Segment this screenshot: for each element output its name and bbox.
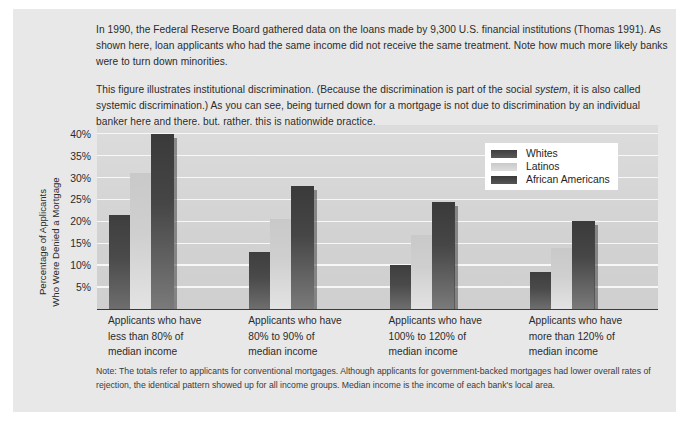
x-category-label-line: more than 120% of <box>529 329 622 345</box>
bar-shadow <box>594 225 598 309</box>
legend-label-latinos: Latinos <box>526 161 560 172</box>
y-tick-label: 40% <box>70 128 91 139</box>
bar-fill <box>270 219 293 309</box>
bar-fill <box>151 134 174 309</box>
bar-fill <box>432 202 455 309</box>
bar-african-americans <box>572 221 598 309</box>
x-category-label-line: Applicants who have <box>529 313 622 329</box>
bar-shadow <box>174 138 178 309</box>
figure-panel: In 1990, the Federal Reserve Board gathe… <box>13 9 676 412</box>
legend-swatch-icon-african-americans <box>491 176 517 184</box>
bar-shadow <box>454 206 458 309</box>
y-tick-label: 30% <box>70 172 91 183</box>
x-category-label-line: median income <box>248 344 341 360</box>
bar-chart: Percentage of Applicants Who Were Denied… <box>13 121 676 371</box>
x-category-label-line: Applicants who have <box>108 313 201 329</box>
x-category-label-line: median income <box>389 344 482 360</box>
bar-african-americans <box>151 134 177 309</box>
y-tick-label: 20% <box>70 216 91 227</box>
x-category-label-line: median income <box>108 344 201 360</box>
x-category-label-line: Applicants who have <box>248 313 341 329</box>
bar-fill <box>551 248 574 309</box>
chart-legend: Whites Latinos African Americans <box>485 143 618 190</box>
bar-fill <box>291 186 314 309</box>
x-category-label: Applicants who havemore than 120% ofmedi… <box>529 313 622 360</box>
legend-item-latinos: Latinos <box>491 160 610 173</box>
y-tick-label: 5% <box>76 282 91 293</box>
x-category-label-line: 80% to 90% of <box>248 329 341 345</box>
bar-fill <box>390 265 413 309</box>
legend-swatch-icon-latinos <box>491 163 517 171</box>
x-category-label: Applicants who haveless than 80% ofmedia… <box>108 313 201 360</box>
figure-note: Note: The totals refer to applicants for… <box>96 365 656 392</box>
bar-fill <box>130 173 153 309</box>
x-category-label-line: Applicants who have <box>389 313 482 329</box>
x-category-label: Applicants who have100% to 120% ofmedian… <box>389 313 482 360</box>
bar-group <box>97 125 237 309</box>
bar-fill <box>530 272 553 309</box>
x-category-label: Applicants who have80% to 90% ofmedian i… <box>248 313 341 360</box>
bar-fill <box>411 235 434 309</box>
emphasis-system: system <box>535 84 568 95</box>
legend-item-african-americans: African Americans <box>491 173 610 186</box>
legend-label-african-americans: African Americans <box>526 174 610 185</box>
y-tick-label: 10% <box>70 260 91 271</box>
x-category-label-line: 100% to 120% of <box>389 329 482 345</box>
x-category-label-line: median income <box>529 344 622 360</box>
x-axis-category-labels: Applicants who haveless than 80% ofmedia… <box>97 313 658 369</box>
y-tick-label: 25% <box>70 194 91 205</box>
legend-item-whites: Whites <box>491 147 610 160</box>
bar-shadow <box>314 190 318 309</box>
y-axis-title-line-1: Percentage of Applicants <box>36 154 49 330</box>
bar-fill <box>249 252 272 309</box>
bar-group <box>237 125 377 309</box>
y-tick-label: 15% <box>70 238 91 249</box>
bar-fill <box>109 215 132 309</box>
intro-paragraph-1: In 1990, the Federal Reserve Board gathe… <box>96 22 673 71</box>
legend-label-whites: Whites <box>526 148 558 159</box>
bar-african-americans <box>432 202 458 309</box>
y-axis-ticks: 40%35%30%25%20%15%10%5% <box>51 121 91 321</box>
legend-swatch-icon-whites <box>491 150 517 158</box>
bar-african-americans <box>291 186 317 309</box>
bar-fill <box>572 221 595 309</box>
y-tick-label: 35% <box>70 150 91 161</box>
x-category-label-line: less than 80% of <box>108 329 201 345</box>
